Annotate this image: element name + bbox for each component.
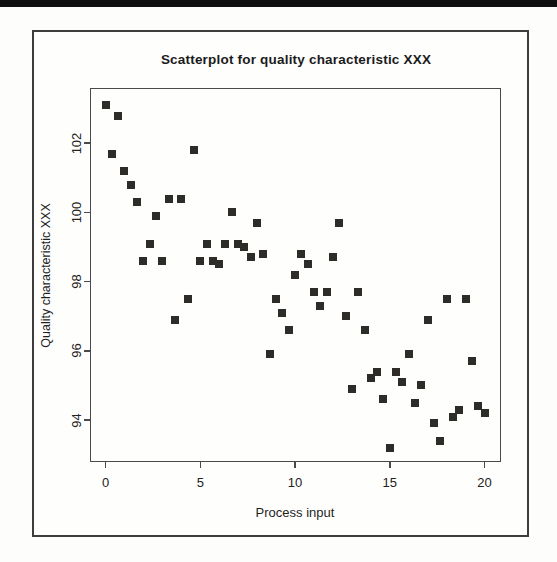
data-point [152, 212, 160, 220]
x-tick-label: 5 [185, 475, 215, 490]
data-point [361, 326, 369, 334]
data-point [221, 240, 229, 248]
data-point [424, 316, 432, 324]
data-point [171, 316, 179, 324]
data-point [114, 112, 122, 120]
data-point [120, 167, 128, 175]
data-point [462, 295, 470, 303]
data-point [247, 253, 255, 261]
data-point [443, 295, 451, 303]
data-point [291, 271, 299, 279]
x-axis-label: Process input [195, 505, 395, 521]
data-point [430, 419, 438, 427]
data-point [278, 309, 286, 317]
y-tick-label: 94 [69, 403, 84, 437]
x-tick-label: 10 [280, 475, 310, 490]
data-point [285, 326, 293, 334]
data-point [146, 240, 154, 248]
data-point [329, 253, 337, 261]
data-point [481, 409, 489, 417]
data-point [335, 219, 343, 227]
data-point [259, 250, 267, 258]
data-point [177, 195, 185, 203]
data-point [139, 257, 147, 265]
y-axis-label: Quality characteristic XXX [39, 176, 54, 376]
x-tick-mark [200, 462, 202, 468]
y-tick-mark [84, 350, 90, 352]
y-tick-mark [84, 142, 90, 144]
y-tick-label: 96 [69, 334, 84, 368]
data-point [203, 240, 211, 248]
data-point [417, 381, 425, 389]
data-point [190, 146, 198, 154]
data-point [367, 374, 375, 382]
data-point [379, 395, 387, 403]
data-point [272, 295, 280, 303]
data-point [310, 288, 318, 296]
data-point [436, 437, 444, 445]
data-point [240, 243, 248, 251]
data-point [398, 378, 406, 386]
data-point [215, 260, 223, 268]
data-point [348, 385, 356, 393]
y-tick-mark [84, 419, 90, 421]
data-point [373, 368, 381, 376]
data-point [266, 350, 274, 358]
data-point [127, 181, 135, 189]
data-point [253, 219, 261, 227]
data-point [411, 399, 419, 407]
x-tick-mark [294, 462, 296, 468]
data-point [405, 350, 413, 358]
data-point [323, 288, 331, 296]
data-point [455, 406, 463, 414]
data-point [316, 302, 324, 310]
data-point [196, 257, 204, 265]
data-point [133, 198, 141, 206]
data-point [228, 208, 236, 216]
x-tick-mark [105, 462, 107, 468]
data-point [184, 295, 192, 303]
x-tick-mark [389, 462, 391, 468]
data-point [342, 312, 350, 320]
x-tick-label: 20 [470, 475, 500, 490]
data-point [108, 150, 116, 158]
data-point [165, 195, 173, 203]
y-tick-label: 98 [69, 265, 84, 299]
data-point [158, 257, 166, 265]
data-point [392, 368, 400, 376]
y-tick-label: 100 [69, 195, 84, 229]
x-tick-label: 0 [91, 475, 121, 490]
data-point [386, 444, 394, 452]
data-point [102, 101, 110, 109]
data-point [304, 260, 312, 268]
y-tick-mark [84, 212, 90, 214]
chart-title: Scatterplot for quality characteristic X… [90, 52, 502, 70]
data-point [449, 413, 457, 421]
data-point [468, 357, 476, 365]
scanned-page: Scatterplot for quality characteristic X… [0, 0, 557, 562]
data-point [354, 288, 362, 296]
data-point [297, 250, 305, 258]
y-tick-mark [84, 281, 90, 283]
x-tick-mark [484, 462, 486, 468]
x-tick-label: 15 [375, 475, 405, 490]
y-tick-label: 102 [69, 126, 84, 160]
page-top-rule [0, 0, 557, 7]
